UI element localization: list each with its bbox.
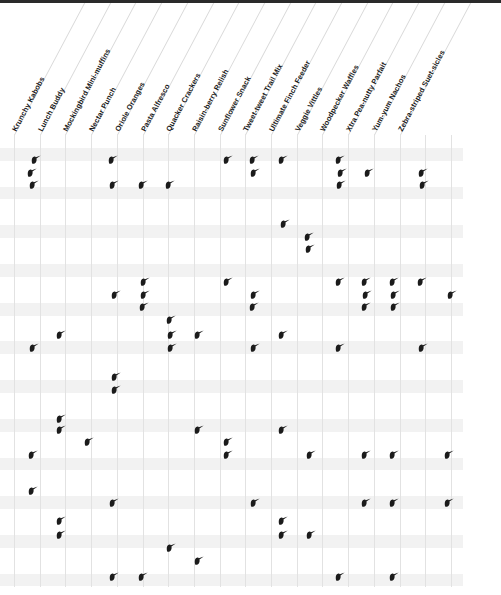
matrix-grid[interactable] [0, 135, 463, 587]
row-band [0, 419, 463, 432]
row-band [0, 187, 463, 200]
row-band [0, 341, 463, 354]
bird-icon [277, 516, 288, 525]
bird-icon [139, 277, 150, 286]
column-divider [322, 135, 323, 587]
column-divider [451, 135, 452, 587]
column-header-band: Krunchy KabobsLunch BuddyMockingbird Min… [0, 3, 501, 135]
column-divider [425, 135, 426, 587]
bird-icon [304, 244, 315, 253]
row-band [0, 458, 463, 471]
bird-icon [55, 330, 66, 339]
bird-icon [83, 437, 94, 446]
bird-icon [222, 277, 233, 286]
bird-icon [249, 168, 260, 177]
bird-icon [361, 290, 372, 299]
bird-icon [336, 168, 347, 177]
column-divider [168, 135, 169, 587]
column-divider [194, 135, 195, 587]
bird-icon [388, 277, 399, 286]
row-band [0, 264, 463, 277]
row-band [0, 303, 463, 316]
bird-icon [139, 290, 150, 299]
row-band [0, 574, 463, 587]
column-divider [143, 135, 144, 587]
row-band [0, 380, 463, 393]
column-divider [65, 135, 66, 587]
column-header-zebra-striped-suet-sicles[interactable]: Zebra-striped Suet-sicles [396, 49, 447, 133]
column-header-mockingbird-mini-muffins[interactable]: Mockingbird Mini-muffins [61, 47, 112, 133]
bird-icon [363, 168, 374, 177]
column-divider [374, 135, 375, 587]
row-band [0, 225, 463, 238]
row-band [0, 496, 463, 509]
column-divider [348, 135, 349, 587]
column-divider [400, 135, 401, 587]
bird-icon [417, 168, 428, 177]
bird-icon [389, 290, 400, 299]
bird-icon [27, 486, 38, 495]
column-divider [297, 135, 298, 587]
bird-icon [26, 168, 37, 177]
column-divider [40, 135, 41, 587]
column-divider [245, 135, 246, 587]
bird-icon [222, 437, 233, 446]
bird-icon [277, 330, 288, 339]
column-divider [117, 135, 118, 587]
column-divider [271, 135, 272, 587]
bird-icon [110, 290, 121, 299]
bird-icon [360, 277, 371, 286]
column-divider [91, 135, 92, 587]
column-divider [14, 135, 15, 587]
bird-icon [55, 516, 66, 525]
row-band [0, 535, 463, 548]
bird-icon [165, 315, 176, 324]
bird-food-matrix-page: Krunchy KabobsLunch BuddyMockingbird Min… [0, 0, 501, 595]
bird-icon [334, 277, 345, 286]
bird-icon [249, 290, 260, 299]
column-divider [220, 135, 221, 587]
row-band [0, 148, 463, 161]
